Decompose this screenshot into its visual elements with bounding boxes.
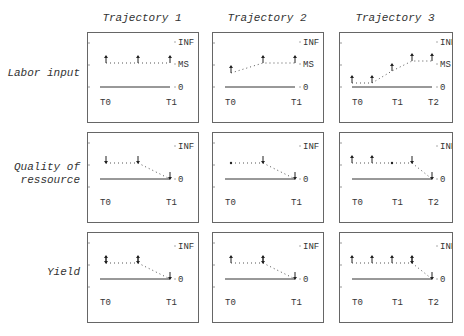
time-label: T1	[291, 98, 302, 108]
level-label-inf: INF	[436, 142, 452, 152]
svg-text:INF: INF	[440, 142, 452, 152]
trend-dot-icon	[391, 162, 393, 164]
level-label-inf: INF	[436, 242, 452, 252]
svg-text:MS: MS	[440, 60, 451, 70]
trend-up-icon	[350, 255, 354, 263]
trend-up-icon	[168, 55, 172, 63]
trend-up-icon	[430, 53, 434, 61]
level-label-inf: INF	[174, 142, 194, 152]
level-label-0: 0	[436, 175, 445, 185]
row-label-quality-of-ressource: Quality of ressource	[0, 161, 80, 187]
svg-text:INF: INF	[178, 38, 194, 48]
time-label: T0	[100, 98, 111, 108]
level-label-0: 0	[299, 83, 308, 93]
svg-text:MS: MS	[178, 60, 189, 70]
level-label-inf: INF	[299, 142, 319, 152]
trend-down-icon	[410, 156, 414, 164]
trend-up-icon	[410, 53, 414, 61]
trend-up-icon	[370, 155, 374, 163]
panel-row2-col2: INF0T0T1T2	[339, 232, 453, 323]
level-label-0: 0	[299, 175, 308, 185]
trend-up-icon	[229, 65, 233, 73]
time-label: T0	[352, 198, 363, 208]
level-label-ms: MS	[436, 60, 451, 70]
trend-up-icon	[390, 255, 394, 263]
svg-text:INF: INF	[303, 38, 319, 48]
svg-text:0: 0	[303, 83, 308, 93]
svg-text:0: 0	[440, 275, 445, 285]
level-label-0: 0	[174, 275, 183, 285]
trend-up-icon	[104, 55, 108, 63]
time-label: T0	[225, 298, 236, 308]
time-label: T1	[166, 98, 177, 108]
trend-updown-icon	[104, 255, 108, 264]
panel-row2-col0: INF0T0T1	[87, 232, 199, 323]
svg-text:0: 0	[440, 83, 445, 93]
trend-down-icon	[136, 156, 140, 164]
svg-text:INF: INF	[440, 38, 452, 48]
trend-updown-icon	[136, 255, 140, 264]
trend-up-icon	[136, 55, 140, 63]
time-label: T0	[100, 198, 111, 208]
trend-up-icon	[390, 63, 394, 71]
svg-text:0: 0	[303, 275, 308, 285]
time-label: T0	[225, 198, 236, 208]
time-label: T1	[392, 198, 403, 208]
trend-up-icon	[370, 255, 374, 263]
level-label-inf: INF	[174, 242, 194, 252]
level-label-inf: INF	[299, 38, 319, 48]
svg-text:INF: INF	[440, 242, 452, 252]
trend-up-icon	[350, 75, 354, 83]
column-title-trajectory-2: Trajectory 2	[207, 12, 327, 24]
level-label-0: 0	[174, 175, 183, 185]
svg-text:0: 0	[178, 175, 183, 185]
column-title-trajectory-1: Trajectory 1	[82, 12, 202, 24]
trend-down-icon	[104, 156, 108, 164]
trend-updown-icon	[410, 255, 414, 264]
time-label: T1	[392, 98, 403, 108]
time-label: T1	[166, 198, 177, 208]
time-label: T2	[428, 198, 439, 208]
trend-down-icon	[261, 156, 265, 164]
time-label: T1	[291, 298, 302, 308]
panel-row1-col1: INF0T0T1	[212, 132, 324, 223]
level-label-inf: INF	[436, 38, 452, 48]
svg-text:INF: INF	[178, 242, 194, 252]
level-label-0: 0	[436, 275, 445, 285]
time-label: T2	[428, 298, 439, 308]
svg-text:0: 0	[178, 275, 183, 285]
trend-dot-icon	[230, 162, 232, 164]
svg-text:MS: MS	[303, 60, 314, 70]
time-label: T1	[392, 298, 403, 308]
time-label: T0	[352, 298, 363, 308]
level-label-0: 0	[174, 83, 183, 93]
trend-up-icon	[293, 55, 297, 63]
level-label-inf: INF	[174, 38, 194, 48]
column-title-trajectory-3: Trajectory 3	[335, 12, 455, 24]
level-label-0: 0	[436, 83, 445, 93]
svg-text:0: 0	[303, 175, 308, 185]
panel-row2-col1: INF0T0T1	[212, 232, 324, 323]
time-label: T1	[291, 198, 302, 208]
level-label-ms: MS	[299, 60, 314, 70]
row-label-yield: Yield	[0, 266, 80, 279]
trend-updown-icon	[261, 255, 265, 264]
time-label: T0	[352, 98, 363, 108]
trend-up-icon	[350, 155, 354, 163]
trend-up-icon	[261, 55, 265, 63]
panel-row0-col0: INFMS0T0T1	[87, 32, 199, 123]
panel-row0-col2: INFMS0T0T1T2	[339, 32, 453, 123]
svg-text:INF: INF	[303, 242, 319, 252]
level-label-0: 0	[299, 275, 308, 285]
panel-row0-col1: INFMS0T0T1	[212, 32, 324, 123]
level-label-ms: MS	[174, 60, 189, 70]
time-label: T0	[225, 98, 236, 108]
svg-text:INF: INF	[178, 142, 194, 152]
trend-up-icon	[370, 75, 374, 83]
time-label: T2	[428, 98, 439, 108]
svg-text:0: 0	[178, 83, 183, 93]
svg-text:0: 0	[440, 175, 445, 185]
svg-text:INF: INF	[303, 142, 319, 152]
panel-row1-col2: INF0T0T1T2	[339, 132, 453, 223]
panel-row1-col0: INF0T0T1	[87, 132, 199, 223]
